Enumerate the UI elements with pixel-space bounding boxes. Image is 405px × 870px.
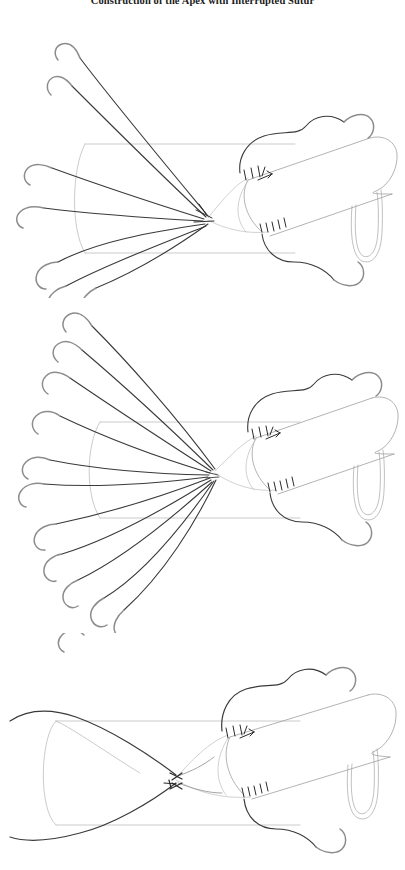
suture-group-lower <box>34 478 216 633</box>
suture-group-upper <box>19 313 215 507</box>
upper-graft-stitches <box>252 426 280 439</box>
suture-group-tied <box>10 711 176 840</box>
suture-needle <box>19 313 92 507</box>
vessel-loop <box>347 749 378 819</box>
suture-thread <box>56 478 216 610</box>
suture-needle <box>36 262 96 298</box>
lower-graft-stitches <box>242 782 268 797</box>
prosthetic-graft-tube <box>244 137 397 236</box>
prosthetic-graft-tube <box>252 397 398 494</box>
figure-title: Construction of the Apex with Interrupte… <box>0 0 405 8</box>
panel-1-drawing <box>0 18 405 298</box>
graft-tissue-margin <box>240 116 344 280</box>
suture-group-upper <box>17 44 208 228</box>
upper-graft-stitches <box>226 725 254 738</box>
suture-thread <box>58 224 208 288</box>
vessel-loop <box>353 450 384 520</box>
panel-3-step-3: Step 3 - apex sutures tied down, knots c… <box>0 633 405 870</box>
vessel-loop <box>351 190 382 262</box>
graft-tissue-margin <box>248 374 352 540</box>
suture-thread <box>44 326 215 486</box>
suture-group-lower <box>36 224 208 298</box>
panel-2-step-2: Step 2 - full set of interrupted apex su… <box>0 298 405 633</box>
native-vessel-outline <box>43 721 300 825</box>
anastomosis-hood <box>208 178 268 233</box>
graft-tissue-margin <box>222 669 326 847</box>
suture-tail <box>178 757 222 793</box>
panel-2-drawing <box>0 298 405 633</box>
panel-1-step-1: Step 1 - apex sutures placed and gathere… <box>0 18 405 298</box>
illustration-page: Construction of the Apex with Interrupte… <box>0 0 405 870</box>
suture-needle <box>34 524 131 633</box>
panel-3-drawing <box>0 633 405 870</box>
prosthetic-graft-tube <box>226 694 396 799</box>
graft-margin-needle <box>316 668 356 853</box>
graft-margin-needle <box>342 373 382 546</box>
graft-margin-needle <box>334 115 374 286</box>
apex-knots <box>164 773 182 789</box>
lower-graft-stitches <box>260 218 286 232</box>
anastomosis-hood <box>215 436 276 490</box>
suture-needle <box>17 44 80 228</box>
anastomosis-hood <box>176 735 250 797</box>
stray-needle-arc <box>58 633 84 652</box>
